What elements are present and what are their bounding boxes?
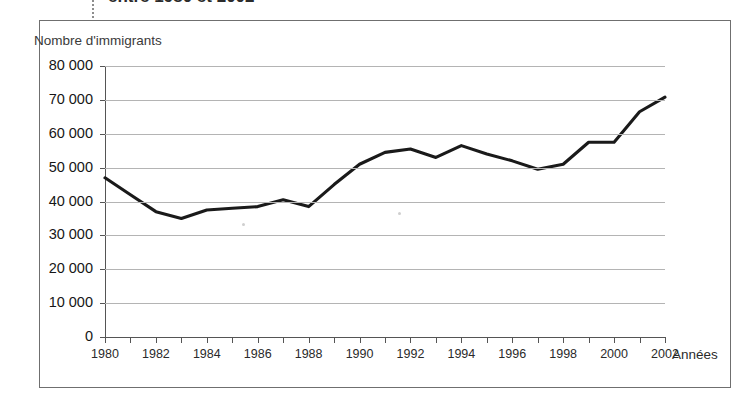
gridline <box>105 235 665 236</box>
gridline <box>105 269 665 270</box>
x-axis-title: Années <box>672 347 718 362</box>
y-axis-tick-label: 40 000 <box>21 193 93 209</box>
scan-artifact <box>398 212 401 215</box>
x-axis-tick-mark <box>385 337 386 343</box>
x-axis-tick-mark <box>258 337 259 343</box>
y-axis-tick-label: 70 000 <box>21 91 93 107</box>
y-axis-tick-label: 30 000 <box>21 226 93 242</box>
x-axis-tick-label: 1984 <box>184 347 230 361</box>
page-title: entre 1980 et 2002 <box>108 0 255 7</box>
x-axis-tick-mark <box>665 337 666 343</box>
x-axis-tick-label: 2000 <box>591 347 637 361</box>
y-axis-title: Nombre d'immigrants <box>34 33 162 48</box>
x-axis-tick-mark <box>614 337 615 343</box>
x-axis-tick-mark <box>461 337 462 343</box>
x-axis-tick-mark <box>360 337 361 343</box>
x-axis-tick-mark <box>589 337 590 343</box>
scan-artifact <box>242 223 245 226</box>
y-axis-tick-label: 50 000 <box>21 159 93 175</box>
x-axis-tick-label: 1980 <box>82 347 128 361</box>
x-axis-tick-mark <box>105 337 106 343</box>
gridline <box>105 303 665 304</box>
y-axis-tick-label: 10 000 <box>21 294 93 310</box>
x-axis-tick-mark <box>232 337 233 343</box>
x-axis-tick-label: 1998 <box>540 347 586 361</box>
x-axis-tick-mark <box>334 337 335 343</box>
x-axis-tick-label: 1988 <box>286 347 332 361</box>
x-axis-tick-mark <box>538 337 539 343</box>
x-axis-tick-mark <box>309 337 310 343</box>
x-axis-tick-mark <box>181 337 182 343</box>
x-axis-tick-label: 1992 <box>387 347 433 361</box>
x-axis-tick-label: 1996 <box>489 347 535 361</box>
y-axis-tick-label: 60 000 <box>21 125 93 141</box>
x-axis-tick-mark <box>156 337 157 343</box>
x-axis-tick-mark <box>512 337 513 343</box>
x-axis-tick-mark <box>563 337 564 343</box>
x-axis-tick-mark <box>410 337 411 343</box>
x-axis-tick-label: 1982 <box>133 347 179 361</box>
gridline <box>105 202 665 203</box>
gridline <box>105 100 665 101</box>
gridline <box>105 134 665 135</box>
title-dotted-divider <box>92 0 94 22</box>
clipped-title-area: entre 1980 et 2002 <box>0 0 747 22</box>
y-axis-tick-label: 0 <box>21 328 93 344</box>
y-axis-tick-label: 80 000 <box>21 57 93 73</box>
gridline <box>105 168 665 169</box>
y-axis-tick-label: 20 000 <box>21 260 93 276</box>
x-axis-tick-mark <box>436 337 437 343</box>
x-axis-tick-mark <box>130 337 131 343</box>
x-axis-tick-label: 1990 <box>337 347 383 361</box>
x-axis-tick-mark <box>640 337 641 343</box>
x-axis-tick-mark <box>207 337 208 343</box>
x-axis-tick-label: 1994 <box>438 347 484 361</box>
x-axis-tick-mark <box>487 337 488 343</box>
x-axis-tick-label: 1986 <box>235 347 281 361</box>
x-axis-tick-mark <box>283 337 284 343</box>
gridline <box>105 66 665 67</box>
